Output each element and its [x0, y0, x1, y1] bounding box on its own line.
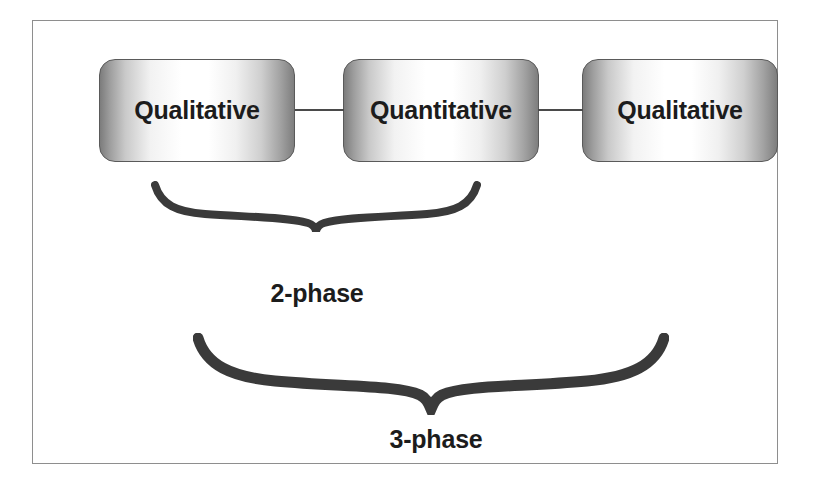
- phase-box-label: Qualitative: [134, 96, 260, 125]
- phase-box-qualitative-1[interactable]: Qualitative: [99, 59, 295, 162]
- brace-3phase-path: [198, 338, 664, 409]
- phase-box-label: Qualitative: [617, 96, 743, 125]
- brace-2phase-icon: [151, 181, 481, 236]
- brace-2phase-path: [155, 185, 477, 231]
- figure-root: Qualitative Quantitative Qualitative 2-p…: [0, 0, 815, 492]
- connector-line-2: [538, 109, 583, 111]
- brace-3phase-svg: [193, 333, 669, 415]
- diagram-frame: Qualitative Quantitative Qualitative 2-p…: [32, 20, 778, 464]
- label-2phase: 2-phase: [232, 279, 402, 308]
- brace-2phase-svg: [151, 181, 481, 236]
- brace-3phase-icon: [193, 333, 669, 415]
- phase-box-qualitative-2[interactable]: Qualitative: [582, 59, 778, 162]
- phase-box-label: Quantitative: [370, 96, 512, 125]
- connector-line-1: [295, 109, 344, 111]
- phase-box-quantitative[interactable]: Quantitative: [343, 59, 539, 162]
- label-3phase: 3-phase: [351, 425, 521, 454]
